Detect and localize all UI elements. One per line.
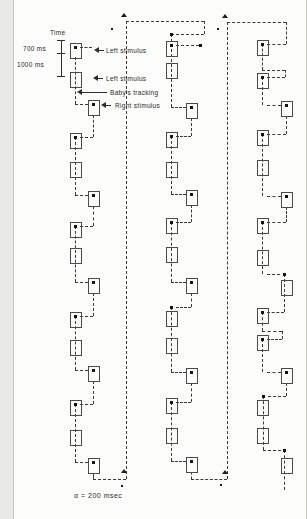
tracking-segment	[267, 77, 285, 78]
left-arrowhead-icon	[101, 102, 106, 108]
tracking-segment	[267, 222, 286, 223]
up-direction-arrow-icon	[121, 469, 127, 473]
path-mark	[121, 485, 123, 487]
tracking-segment	[191, 118, 192, 136]
stimulus-box	[166, 162, 178, 178]
tracking-segment	[176, 402, 191, 403]
stimulus-box	[257, 160, 269, 176]
stimulus-onset-dot	[262, 395, 265, 398]
stimulus-onset-dot	[74, 403, 77, 406]
stimulus-box	[257, 250, 269, 266]
tracking-segment	[75, 370, 88, 371]
babys-tracking-label: Baby's tracking	[110, 89, 158, 96]
tracking-segment	[267, 44, 286, 45]
stimulus-onset-dot	[92, 369, 95, 372]
stimulus-onset-dot	[74, 46, 77, 49]
tick-label-1000ms: 1000 ms	[17, 61, 44, 68]
up-direction-arrow-icon	[222, 470, 228, 474]
tracking-segment	[75, 104, 88, 105]
stimulus-box	[166, 428, 178, 444]
stimulus-onset-dot	[170, 306, 173, 309]
tracking-segment	[286, 116, 287, 134]
stimulus-onset-dot	[261, 221, 264, 224]
tracking-segment	[286, 207, 287, 222]
tracking-segment	[93, 381, 94, 404]
up-direction-arrow-icon	[121, 13, 127, 17]
tracking-segment	[227, 22, 228, 479]
tracking-segment	[93, 115, 94, 137]
figure-canvas: Time 700 ms 1000 ms Left stimulus Left s…	[14, 0, 306, 519]
tracking-segment	[267, 196, 281, 197]
left-arrowhead-icon	[77, 89, 82, 95]
stimulus-box	[257, 428, 269, 444]
stimulus-onset-dot	[190, 193, 193, 196]
stimulus-onset-dot	[261, 133, 264, 136]
left-arrowhead-icon	[94, 47, 99, 53]
stimulus-onset-dot	[74, 315, 77, 318]
tracking-segment	[93, 206, 94, 226]
tracking-segment	[176, 45, 199, 46]
time-axis	[61, 40, 62, 76]
stimulus-onset-dot	[261, 338, 264, 341]
stimulus-box	[70, 72, 82, 88]
stimulus-onset-dot	[170, 401, 173, 404]
stimulus-box	[70, 430, 82, 446]
tracking-segment	[126, 21, 204, 22]
tracking-segment	[286, 22, 287, 44]
stimulus-onset-dot	[74, 225, 77, 228]
right-stimulus-label: Right stimulus	[115, 102, 160, 109]
tracking-segment	[176, 136, 191, 137]
stimulus-box	[281, 458, 293, 474]
tracking-segment	[191, 293, 192, 307]
stimulus-box	[166, 247, 178, 263]
stimulus-onset-dot	[74, 136, 77, 139]
tick-label-700ms: 700 ms	[23, 45, 46, 52]
stimulus-onset-dot	[92, 461, 95, 464]
stimulus-onset-dot	[283, 273, 286, 276]
stimulus-onset-dot	[261, 76, 264, 79]
tracking-segment	[267, 339, 282, 340]
tracking-segment	[267, 134, 286, 135]
tracking-segment	[171, 194, 186, 195]
tracking-segment	[75, 462, 88, 463]
stimulus-box	[70, 248, 82, 264]
time-axis-tick	[57, 40, 65, 41]
tracking-segment	[75, 195, 88, 196]
tracking-segment	[262, 331, 282, 332]
tracking-segment	[171, 34, 204, 35]
tracking-segment	[171, 372, 186, 373]
stimulus-onset-dot	[190, 460, 193, 463]
tracking-segment	[171, 282, 186, 283]
tracking-segment	[191, 479, 227, 480]
tracking-segment	[267, 274, 280, 275]
path-mark	[220, 484, 222, 486]
tracking-segment	[263, 450, 281, 451]
tracking-segment	[93, 479, 126, 480]
callout-arrow	[80, 92, 107, 93]
stimulus-onset-dot	[92, 103, 95, 106]
tracking-segment	[126, 21, 127, 479]
stimulus-box	[166, 338, 178, 354]
stimulus-box	[70, 340, 82, 356]
tracking-segment	[267, 372, 281, 373]
tracking-segment	[267, 105, 281, 106]
up-direction-arrow-icon	[222, 14, 228, 18]
tracking-segment	[93, 293, 94, 316]
tracking-segment	[204, 21, 205, 34]
stimulus-onset-dot	[190, 106, 193, 109]
stimulus-onset-dot	[190, 371, 193, 374]
tracking-segment	[268, 396, 286, 397]
tracking-segment	[191, 205, 192, 222]
stimulus-onset-dot	[283, 449, 286, 452]
stimulus-onset-dot	[190, 281, 193, 284]
stimulus-box	[70, 162, 82, 178]
left-arrowhead-icon	[93, 75, 98, 81]
time-axis-title: Time	[50, 29, 65, 36]
time-axis-tick	[57, 76, 65, 77]
stimulus-box	[257, 400, 269, 416]
tracking-segment	[267, 312, 284, 313]
tracking-segment	[171, 107, 186, 108]
tracking-segment	[286, 383, 287, 396]
tracking-segment	[191, 472, 192, 479]
stimulus-box	[166, 311, 178, 327]
